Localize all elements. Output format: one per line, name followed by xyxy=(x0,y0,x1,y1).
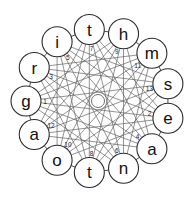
node-index-label: 12 xyxy=(47,122,55,129)
node-letter: h xyxy=(119,25,128,44)
center-hub-circle xyxy=(92,95,105,108)
node-letter: i xyxy=(55,33,59,52)
star-polygon-diagram: grithmseantoa 13579111324681012 xyxy=(0,0,196,202)
ring-segment xyxy=(30,116,31,120)
chord-line xyxy=(40,106,138,143)
node-index-label: 11 xyxy=(134,62,141,69)
node-index-label: 1 xyxy=(43,98,47,105)
node-letter: g xyxy=(21,92,30,111)
ring-segment xyxy=(44,146,47,149)
chord-line xyxy=(49,120,153,133)
node-index-label: 8 xyxy=(90,150,94,157)
node-letter: a xyxy=(30,125,40,144)
node-index-label: 10 xyxy=(64,141,72,148)
chord-line xyxy=(40,59,138,96)
ring-segment xyxy=(159,67,161,71)
node-index-label: 3 xyxy=(49,73,53,80)
ring-segment xyxy=(136,42,140,45)
node-letter: o xyxy=(52,151,61,170)
node-index-label: 13 xyxy=(146,85,154,92)
ring-segment xyxy=(136,157,140,160)
chord-line xyxy=(67,64,142,149)
node-letter: t xyxy=(87,21,92,40)
node-index-label: 6 xyxy=(115,147,119,154)
chord-line xyxy=(61,44,86,146)
node-letter: e xyxy=(163,109,172,128)
node-letter: n xyxy=(119,159,128,178)
ring-segment xyxy=(104,170,108,171)
node-letter: m xyxy=(145,44,159,63)
node-index-label: 7 xyxy=(90,45,94,52)
ring-segment xyxy=(159,132,161,136)
chord-line xyxy=(67,53,142,138)
node-index-label: 4 xyxy=(136,133,140,140)
chord-line xyxy=(47,62,140,126)
node-index-label: 5 xyxy=(66,54,70,61)
ring-segment xyxy=(71,166,75,168)
node-letter: a xyxy=(147,140,157,159)
ring-segment xyxy=(71,35,75,37)
node-letter: s xyxy=(164,75,173,94)
cipher-wheel-figure: grithmseantoa 13579111324681012 xyxy=(0,0,196,202)
ring-segment xyxy=(104,31,108,32)
chord-line xyxy=(47,76,140,140)
node-index-label: 9 xyxy=(115,48,119,55)
ring-segment xyxy=(30,82,31,86)
node-letter: r xyxy=(31,59,37,78)
node-letter: t xyxy=(87,163,92,182)
chord-line xyxy=(49,69,153,82)
node-index-label: 2 xyxy=(148,110,152,117)
ring-segment xyxy=(44,53,47,56)
